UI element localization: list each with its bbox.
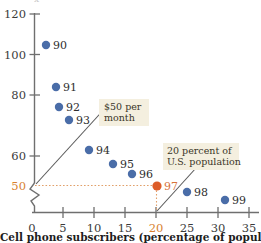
price-callout-line1: $50 per (104, 101, 142, 112)
data-point-99[interactable]: 99 (221, 194, 246, 207)
data-point-93[interactable]: 93 (65, 114, 90, 127)
data-point-91[interactable]: 91 (52, 81, 77, 94)
data-point-94[interactable]: 94 (85, 144, 110, 157)
point-marker (152, 181, 161, 190)
point-label: 94 (96, 144, 110, 157)
point-label: 96 (139, 168, 153, 181)
population-callout-line1: 20 percent of (167, 145, 233, 156)
point-marker (42, 41, 50, 49)
y-axis-break (30, 183, 39, 212)
data-point-92[interactable]: 92 (55, 101, 80, 114)
point-label: 98 (194, 186, 208, 199)
data-point-90[interactable]: 90 (42, 39, 67, 52)
point-marker (221, 196, 229, 204)
y-tick-label-50: 50 (11, 179, 26, 193)
y-tick-label-100: 100 (4, 48, 26, 62)
point-marker (183, 188, 191, 196)
point-label: 92 (66, 101, 80, 114)
point-label: 91 (63, 81, 77, 94)
y-tick-label-120: 120 (4, 7, 26, 21)
data-point-98[interactable]: 98 (183, 186, 208, 199)
x-axis-caption: Cell phone subscribers (percentage of po… (0, 231, 261, 243)
y-tick-label-60: 60 (11, 149, 26, 163)
point-label: 97 (164, 180, 178, 193)
point-marker (128, 170, 136, 178)
y-tick-label-80: 80 (11, 88, 26, 102)
point-marker (85, 146, 93, 154)
point-label: 93 (76, 114, 90, 127)
point-label: 95 (120, 158, 134, 171)
price-callout-line2: month (104, 112, 135, 123)
population-callout-line2: U.S. population (167, 156, 241, 167)
point-marker (55, 103, 63, 111)
point-marker (109, 160, 117, 168)
point-label: 90 (53, 39, 67, 52)
point-label: 99 (232, 194, 246, 207)
data-point-96[interactable]: 96 (128, 168, 153, 181)
data-point-95[interactable]: 95 (109, 158, 134, 171)
point-marker (65, 116, 73, 124)
point-marker (52, 83, 60, 91)
